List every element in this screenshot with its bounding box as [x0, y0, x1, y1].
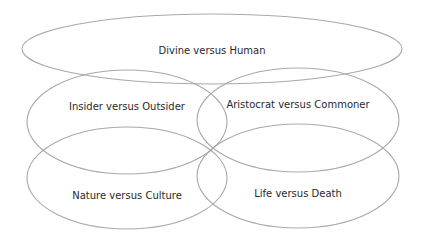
ellipse-label-life-death: Life versus Death	[254, 188, 342, 199]
ellipse-label-nature-culture: Nature versus Culture	[72, 190, 182, 201]
oppositions-diagram: Divine versus Human Insider versus Outsi…	[0, 0, 422, 241]
ellipse-label-aristocrat-commoner: Aristocrat versus Commoner	[226, 99, 370, 110]
ellipse-label-insider-outsider: Insider versus Outsider	[69, 101, 186, 112]
ellipse-label-divine-human: Divine versus Human	[158, 45, 265, 56]
